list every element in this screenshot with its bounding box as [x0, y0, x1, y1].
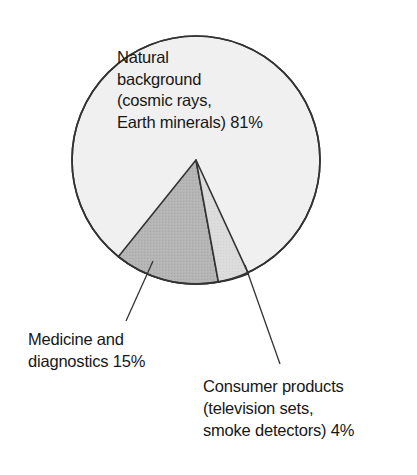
callout-consumer-line-1: Consumer products [203, 377, 344, 395]
pie-label-line-4: Earth minerals) 81% [117, 113, 263, 131]
radiation-exposure-pie-chart: Natural background (cosmic rays, Earth m… [0, 0, 417, 475]
callout-consumer-line-2: (television sets, [203, 399, 313, 417]
callout-consumer-line-3: smoke detectors) 4% [203, 421, 355, 439]
callout-medicine-line-2: diagnostics 15% [28, 352, 146, 370]
pie-label-line-3: (cosmic rays, [117, 91, 212, 109]
pie-label-line-2: background [117, 70, 201, 88]
pie-label-line-1: Natural [117, 48, 169, 66]
callout-medicine-line-1: Medicine and [28, 330, 124, 348]
